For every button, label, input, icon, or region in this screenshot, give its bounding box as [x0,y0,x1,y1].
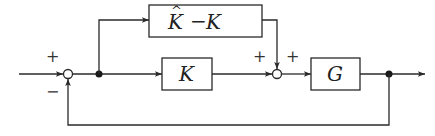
line-to-khat-block [99,20,149,74]
summing-junction-1 [64,70,73,79]
sum2-left-plus-sign: + [253,47,266,66]
sum1-plus-sign: + [46,47,59,66]
minus-operator: − [190,9,207,33]
g-block-label: G [327,62,343,86]
sum2-top-plus-sign: + [286,47,299,66]
k-block-label: K [178,62,195,86]
k-label-second: K [205,10,222,34]
sum1-minus-sign: − [46,82,59,101]
summing-junction-2 [273,70,282,79]
block-diagram: + − K ^ − K K + + G [0,0,435,136]
hat-accent: ^ [171,3,182,18]
